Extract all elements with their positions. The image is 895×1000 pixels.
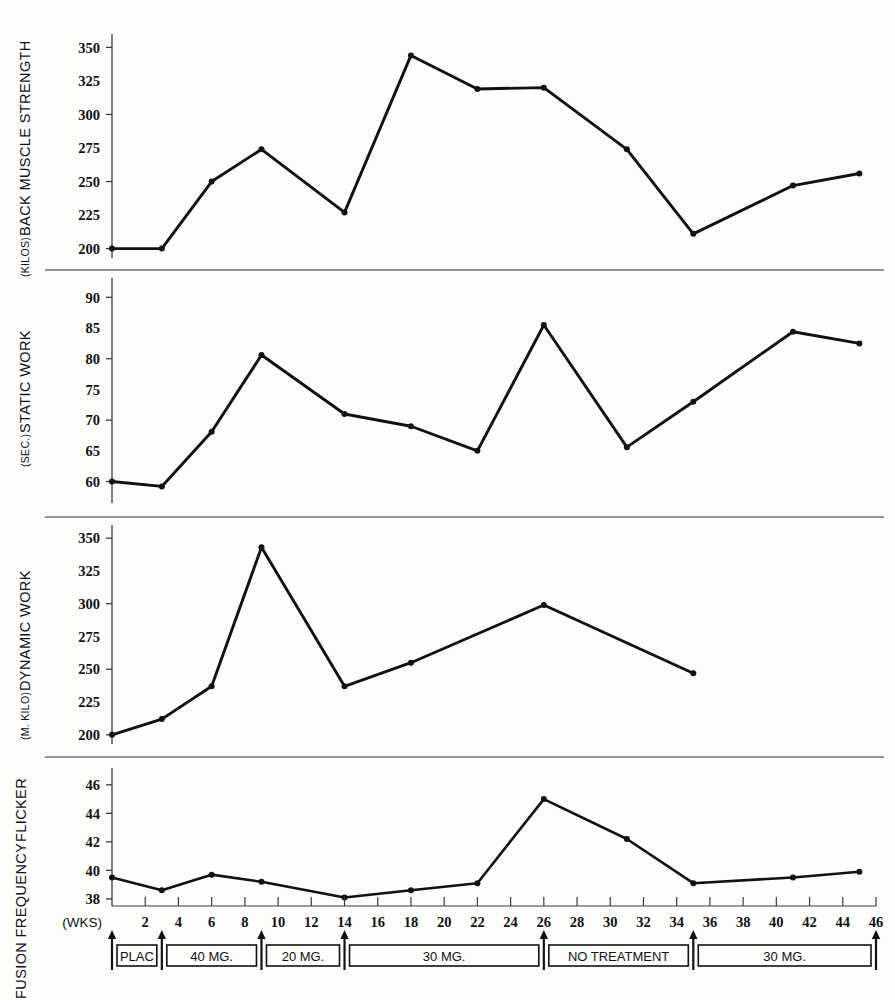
- data-point-3-6: [474, 880, 480, 886]
- y-tick-label-2-3: 275: [78, 629, 100, 645]
- x-axis-unit-label: (WKS): [62, 915, 102, 930]
- x-tick-label-16: 34: [669, 914, 684, 930]
- data-point-3-7: [541, 796, 547, 802]
- data-point-0-4: [342, 209, 348, 215]
- x-tick-label-12: 26: [537, 914, 552, 930]
- x-tick-label-19: 40: [769, 914, 784, 930]
- data-point-0-8: [624, 146, 630, 152]
- y-tick-label-3-4: 46: [86, 777, 101, 793]
- data-point-1-5: [408, 423, 414, 429]
- dosage-transition-arrow-1: [158, 930, 166, 970]
- data-point-0-5: [408, 52, 414, 58]
- data-point-0-0: [109, 246, 115, 252]
- dosage-transition-arrow-4: [540, 930, 548, 970]
- chart-panel-0: 200225250275300325350: [78, 34, 862, 258]
- data-point-1-2: [209, 429, 215, 435]
- x-tick-label-14: 30: [603, 914, 618, 930]
- y-tick-label-0-1: 225: [78, 207, 100, 223]
- y-tick-label-1-2: 70: [86, 412, 101, 428]
- data-point-1-10: [790, 329, 796, 335]
- y-tick-label-1-5: 85: [86, 320, 101, 336]
- y-tick-label-0-4: 300: [78, 107, 100, 123]
- x-tick-label-0: 2: [142, 914, 149, 930]
- data-point-3-9: [690, 880, 696, 886]
- y-tick-label-1-4: 80: [86, 351, 101, 367]
- data-point-1-9: [690, 399, 696, 405]
- y-tick-label-0-3: 275: [78, 140, 100, 156]
- y-tick-label-0-0: 200: [78, 241, 100, 257]
- x-tick-label-13: 28: [570, 914, 585, 930]
- data-point-2-1: [159, 716, 165, 722]
- x-tick-label-10: 22: [470, 914, 485, 930]
- x-tick-label-3: 8: [241, 914, 248, 930]
- y-tick-label-2-0: 200: [78, 727, 100, 743]
- data-point-0-1: [159, 246, 165, 252]
- y-tick-label-2-1: 225: [78, 694, 100, 710]
- x-tick-label-4: 10: [271, 914, 286, 930]
- y-tick-label-3-0: 38: [86, 891, 101, 907]
- data-point-2-3: [258, 544, 264, 550]
- data-line-3: [112, 799, 859, 897]
- x-tick-label-2: 6: [208, 914, 215, 930]
- y-tick-label-2-6: 350: [78, 530, 100, 546]
- data-point-2-7: [690, 670, 696, 676]
- figure-root: BACK MUSCLE STRENGTH (KILOS) STATIC WORK…: [0, 0, 895, 1000]
- dosage-transition-arrow-3: [340, 930, 348, 970]
- chart-panel-3: 3840424446: [86, 768, 877, 907]
- x-tick-label-20: 42: [802, 914, 817, 930]
- x-tick-label-5: 12: [304, 914, 319, 930]
- data-point-0-6: [474, 86, 480, 92]
- y-tick-label-0-5: 325: [78, 73, 100, 89]
- y-tick-label-2-4: 300: [78, 596, 100, 612]
- dosage-segment-label-3: 30 MG.: [423, 949, 466, 964]
- y-tick-label-3-2: 42: [86, 834, 101, 850]
- data-point-0-2: [209, 179, 215, 185]
- data-point-2-4: [342, 683, 348, 689]
- dosage-segment-label-1: 40 MG.: [190, 949, 233, 964]
- y-tick-label-2-2: 250: [78, 661, 100, 677]
- dosage-segment-label-2: 20 MG.: [282, 949, 325, 964]
- dosage-segment-label-4: NO TREATMENT: [568, 949, 669, 964]
- x-tick-label-6: 14: [337, 914, 352, 930]
- data-point-3-2: [209, 872, 215, 878]
- x-tick-label-9: 20: [437, 914, 452, 930]
- data-point-1-11: [856, 340, 862, 346]
- data-point-1-6: [474, 448, 480, 454]
- dosage-segment-label-0: PLAC: [120, 949, 154, 964]
- data-point-0-9: [690, 231, 696, 237]
- data-point-0-7: [541, 85, 547, 91]
- data-line-0: [112, 55, 859, 248]
- y-tick-label-0-2: 250: [78, 174, 100, 190]
- data-line-1: [112, 325, 859, 486]
- y-tick-label-1-1: 65: [86, 443, 101, 459]
- data-point-0-11: [856, 170, 862, 176]
- y-tick-label-3-1: 40: [86, 863, 101, 879]
- dosage-transition-arrow-5: [689, 930, 697, 970]
- dosage-transition-arrow-6: [872, 930, 880, 970]
- data-point-3-1: [159, 887, 165, 893]
- data-point-1-3: [258, 352, 264, 358]
- multi-panel-line-chart: 2002252502753003253506065707580859020022…: [0, 0, 895, 1000]
- x-tick-label-11: 24: [503, 914, 518, 930]
- x-tick-label-18: 38: [736, 914, 751, 930]
- data-line-2: [112, 547, 693, 734]
- data-point-3-0: [109, 874, 115, 880]
- data-point-2-0: [109, 732, 115, 738]
- dosage-transition-arrow-2: [257, 930, 265, 970]
- data-point-0-10: [790, 183, 796, 189]
- x-tick-label-7: 16: [370, 914, 385, 930]
- y-tick-label-0-6: 350: [78, 40, 100, 56]
- x-tick-label-21: 44: [836, 914, 851, 930]
- data-point-0-3: [258, 146, 264, 152]
- data-point-2-6: [541, 602, 547, 608]
- data-point-3-11: [856, 869, 862, 875]
- chart-panel-1: 60657075808590: [86, 278, 863, 503]
- y-tick-label-2-5: 325: [78, 563, 100, 579]
- dosage-transition-arrow-0: [108, 930, 116, 970]
- dosage-segment-label-5: 30 MG.: [763, 949, 806, 964]
- data-point-1-7: [541, 322, 547, 328]
- data-point-1-4: [342, 411, 348, 417]
- x-tick-label-15: 32: [636, 914, 651, 930]
- y-tick-label-1-0: 60: [86, 474, 101, 490]
- x-tick-label-22: 46: [869, 914, 884, 930]
